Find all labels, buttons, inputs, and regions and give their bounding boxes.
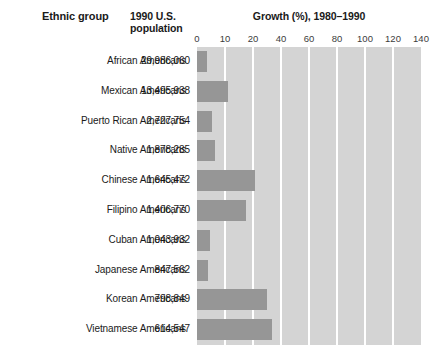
bar-growth-percent <box>197 289 267 310</box>
chart-row: Chinese Americans1,645,472 <box>0 166 431 196</box>
bar-growth-percent <box>197 81 228 102</box>
row-value-population: 798,849 <box>110 293 190 305</box>
row-value-population: 614,547 <box>110 323 190 335</box>
row-value-population: 1,406,770 <box>110 204 190 216</box>
chart-row: Puerto Rican Americans2,727,754 <box>0 107 431 137</box>
chart-row: African Americans29,986,060 <box>0 47 431 77</box>
chart-rows: African Americans29,986,060Mexican Ameri… <box>0 0 431 352</box>
chart-row: Cuban Americans1,043,932 <box>0 226 431 256</box>
row-value-population: 847,562 <box>110 264 190 276</box>
row-value-population: 1,043,932 <box>110 234 190 246</box>
row-value-population: 29,986,060 <box>110 55 190 67</box>
bar-growth-percent <box>197 170 255 191</box>
bar-growth-percent <box>197 51 207 72</box>
bar-growth-percent <box>197 111 212 132</box>
bar-growth-percent <box>197 260 208 281</box>
chart-row: Vietnamese Americans614,547 <box>0 315 431 345</box>
row-value-population: 1,645,472 <box>110 174 190 186</box>
row-value-population: 1,878,285 <box>110 144 190 156</box>
chart-row: Korean Americans798,849 <box>0 285 431 315</box>
growth-chart-figure: Ethnic group 1990 U.S. population Growth… <box>0 0 431 352</box>
bar-growth-percent <box>197 319 272 340</box>
chart-row: Japanese Americans847,562 <box>0 256 431 286</box>
bar-growth-percent <box>197 230 210 251</box>
chart-row: Mexican Americans13,495,938 <box>0 77 431 107</box>
bar-growth-percent <box>197 200 246 221</box>
row-value-population: 13,495,938 <box>110 85 190 97</box>
row-value-population: 2,727,754 <box>110 115 190 127</box>
bar-growth-percent <box>197 140 215 161</box>
chart-row: Filipino Americans1,406,770 <box>0 196 431 226</box>
chart-row: Native Americans1,878,285 <box>0 136 431 166</box>
